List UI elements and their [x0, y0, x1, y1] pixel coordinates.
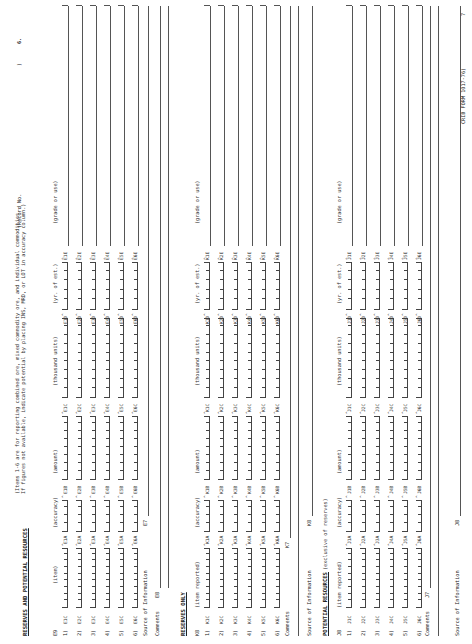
- entry-box[interactable]: [62, 416, 68, 480]
- entry-box[interactable]: [62, 318, 68, 398]
- entry-box[interactable]: [246, 318, 252, 398]
- entry-box[interactable]: [374, 500, 380, 532]
- entry-box[interactable]: [232, 500, 238, 532]
- grade-use-field[interactable]: [366, 6, 367, 246]
- entry-box[interactable]: [118, 262, 124, 310]
- entry-box[interactable]: [360, 416, 366, 480]
- grade-use-field[interactable]: [252, 6, 253, 246]
- grade-use-field[interactable]: [82, 6, 83, 246]
- entry-box[interactable]: [416, 548, 422, 608]
- grade-use-field[interactable]: [124, 6, 125, 246]
- entry-box[interactable]: [90, 500, 96, 532]
- entry-box[interactable]: [218, 500, 224, 532]
- entry-box[interactable]: [260, 500, 266, 532]
- entry-box[interactable]: [204, 318, 210, 398]
- entry-box[interactable]: [218, 318, 224, 398]
- entry-box[interactable]: [62, 262, 68, 310]
- grade-use-field[interactable]: [96, 6, 97, 246]
- entry-box[interactable]: [260, 262, 266, 310]
- entry-box[interactable]: [346, 548, 352, 608]
- entry-box[interactable]: [118, 416, 124, 480]
- grade-use-field[interactable]: [224, 6, 225, 246]
- entry-box[interactable]: [104, 416, 110, 480]
- grade-use-field[interactable]: [408, 6, 409, 246]
- section1-comments-field[interactable]: [160, 6, 161, 588]
- entry-box[interactable]: [204, 500, 210, 532]
- entry-box[interactable]: [360, 262, 366, 310]
- entry-box[interactable]: [104, 500, 110, 532]
- entry-box[interactable]: [76, 262, 82, 310]
- entry-box[interactable]: [374, 262, 380, 310]
- entry-box[interactable]: [260, 416, 266, 480]
- entry-box[interactable]: [132, 318, 138, 398]
- entry-box[interactable]: [388, 318, 394, 398]
- grade-use-field[interactable]: [280, 6, 281, 246]
- section2-comments-field-2[interactable]: [298, 6, 299, 636]
- grade-use-field[interactable]: [380, 6, 381, 246]
- entry-box[interactable]: [346, 262, 352, 310]
- section2-comments-field[interactable]: [290, 6, 291, 538]
- grade-use-field[interactable]: [238, 6, 239, 246]
- grade-use-field[interactable]: [266, 6, 267, 246]
- entry-box[interactable]: [388, 262, 394, 310]
- entry-box[interactable]: [118, 548, 124, 608]
- entry-box[interactable]: [204, 416, 210, 480]
- entry-box[interactable]: [76, 416, 82, 480]
- entry-box[interactable]: [360, 318, 366, 398]
- section3-comments-field[interactable]: [430, 6, 431, 588]
- entry-box[interactable]: [246, 500, 252, 532]
- grade-use-field[interactable]: [422, 6, 423, 246]
- entry-box[interactable]: [374, 548, 380, 608]
- entry-box[interactable]: [218, 416, 224, 480]
- entry-box[interactable]: [416, 500, 422, 532]
- entry-box[interactable]: [204, 548, 210, 608]
- grade-use-field[interactable]: [110, 6, 111, 246]
- entry-box[interactable]: [388, 548, 394, 608]
- entry-box[interactable]: [274, 500, 280, 532]
- entry-box[interactable]: [402, 262, 408, 310]
- entry-box[interactable]: [104, 262, 110, 310]
- entry-box[interactable]: [374, 318, 380, 398]
- entry-box[interactable]: [346, 318, 352, 398]
- entry-box[interactable]: [204, 262, 210, 310]
- grade-use-field[interactable]: [394, 6, 395, 246]
- entry-box[interactable]: [402, 416, 408, 480]
- grade-use-field[interactable]: [68, 6, 69, 246]
- entry-box[interactable]: [90, 416, 96, 480]
- entry-box[interactable]: [360, 548, 366, 608]
- entry-box[interactable]: [246, 548, 252, 608]
- entry-box[interactable]: [374, 416, 380, 480]
- entry-box[interactable]: [274, 548, 280, 608]
- entry-box[interactable]: [76, 548, 82, 608]
- entry-box[interactable]: [360, 500, 366, 532]
- entry-box[interactable]: [346, 500, 352, 532]
- entry-box[interactable]: [132, 416, 138, 480]
- grade-use-field[interactable]: [210, 6, 211, 246]
- entry-box[interactable]: [246, 416, 252, 480]
- entry-box[interactable]: [416, 416, 422, 480]
- entry-box[interactable]: [132, 548, 138, 608]
- entry-box[interactable]: [416, 318, 422, 398]
- entry-box[interactable]: [218, 548, 224, 608]
- entry-box[interactable]: [104, 548, 110, 608]
- entry-box[interactable]: [402, 318, 408, 398]
- entry-box[interactable]: [232, 416, 238, 480]
- entry-box[interactable]: [416, 262, 422, 310]
- grade-use-field[interactable]: [138, 6, 139, 246]
- entry-box[interactable]: [90, 262, 96, 310]
- entry-box[interactable]: [76, 500, 82, 532]
- entry-box[interactable]: [274, 262, 280, 310]
- entry-box[interactable]: [232, 548, 238, 608]
- entry-box[interactable]: [118, 318, 124, 398]
- entry-box[interactable]: [132, 500, 138, 532]
- entry-box[interactable]: [132, 262, 138, 310]
- entry-box[interactable]: [90, 318, 96, 398]
- grade-use-field[interactable]: [352, 6, 353, 246]
- entry-box[interactable]: [274, 416, 280, 480]
- entry-box[interactable]: [118, 500, 124, 532]
- section1-source-field[interactable]: [148, 6, 149, 516]
- section3-comments-field-2[interactable]: [438, 6, 439, 636]
- entry-box[interactable]: [260, 318, 266, 398]
- entry-box[interactable]: [346, 416, 352, 480]
- entry-box[interactable]: [104, 318, 110, 398]
